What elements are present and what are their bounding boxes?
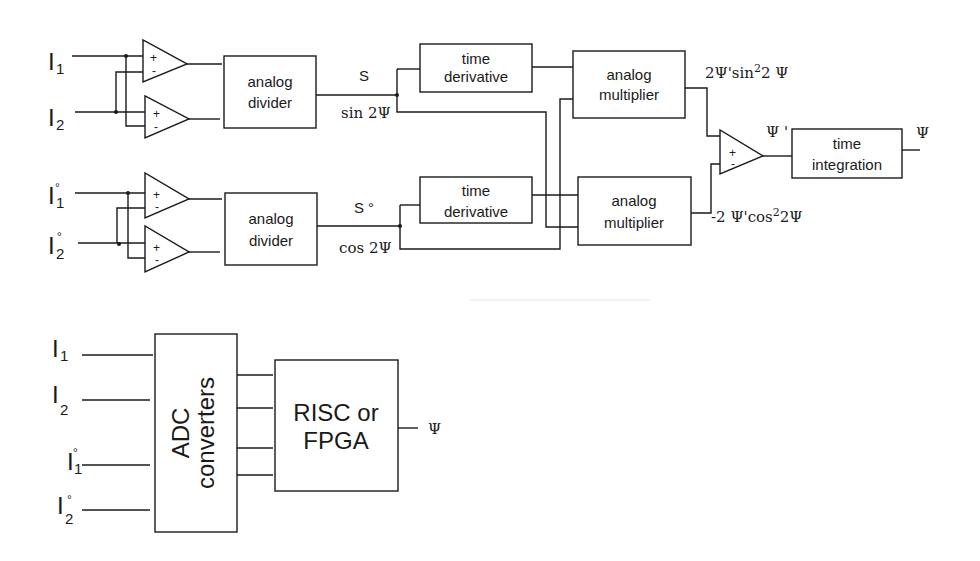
svg-text:analog: analog [606,66,651,83]
time-derivative-top: time derivative [420,44,532,92]
opamp-top-1: + - [143,40,187,82]
svg-text:2: 2 [56,116,64,133]
svg-text:analog: analog [247,73,292,90]
svg-text:divider: divider [248,94,292,111]
digital-input-i2: I 2 [52,381,150,418]
svg-text:-: - [731,157,735,171]
svg-text:-: - [155,253,159,267]
input-label-i1: I 1 [48,48,64,77]
svg-text:I: I [52,381,59,408]
svg-text:I: I [48,182,55,209]
adc-converters: ADC converters [155,334,237,532]
analog-multiplier-top: analog multiplier [573,51,685,118]
digital-input-i2-ref: I ° 2 [57,492,150,527]
svg-text:cos 2Ψ: cos 2Ψ [339,239,392,257]
svg-text:-: - [152,64,156,78]
block-diagram: I 1 I 2 I ° 1 I ° 2 + [0,0,980,561]
svg-text:ADC: ADC [167,408,194,459]
svg-text:+: + [153,107,160,121]
risc-fpga-processor: RISC or FPGA [275,360,398,491]
input-label-i2-ref: I ° 2 [48,230,64,262]
svg-text:time: time [833,135,861,152]
analog-chain: I 1 I 2 I ° 1 I ° 2 + [48,40,929,272]
svg-text:2Ψ'sin22 Ψ: 2Ψ'sin22 Ψ [705,62,788,82]
svg-text:-2 Ψ'cos22Ψ: -2 Ψ'cos22Ψ [711,206,803,226]
opamp-top-2: + - [145,96,189,138]
time-derivative-bottom: time derivative [420,177,532,223]
svg-text:°: ° [57,230,62,244]
analog-divider-bottom: analog divider [225,193,317,265]
svg-text:I: I [48,232,55,259]
svg-text:FPGA: FPGA [303,427,368,454]
digital-output-psi: Ψ [428,420,441,438]
svg-text:1: 1 [56,194,64,211]
svg-text:multiplier: multiplier [599,86,659,103]
svg-text:-: - [155,200,159,214]
svg-text:I: I [48,48,55,75]
digital-chain: I 1 I 2 I ° 1 I ° 2 ADC converters [52,334,441,532]
svg-text:+: + [150,51,157,65]
digital-input-i1: I 1 [52,335,153,364]
digital-input-i1-ref: I ° 1 [67,446,150,477]
svg-text:integration: integration [812,156,882,173]
svg-text:2: 2 [65,510,73,527]
svg-text:S: S [359,67,369,84]
svg-text:°: ° [67,493,72,507]
input-label-i1-ref: I ° 1 [48,181,64,211]
product-top-label: 2Ψ'sin22 Ψ [705,62,788,82]
svg-text:S °: S ° [354,199,374,216]
time-integration: time integration [792,129,902,178]
svg-text:RISC or: RISC or [293,399,378,426]
svg-text:1: 1 [56,60,64,77]
svg-text:analog: analog [611,192,656,209]
analog-divider-top: analog divider [224,56,316,128]
analog-multiplier-bottom: analog multiplier [578,177,691,245]
svg-text:divider: divider [249,232,293,249]
svg-text:time: time [462,50,490,67]
svg-text:I: I [52,335,59,362]
svg-text:°: ° [73,446,78,460]
svg-text:converters: converters [192,377,219,489]
input-label-i2: I 2 [48,104,64,133]
product-bottom-label: -2 Ψ'cos22Ψ [711,206,803,226]
opamp-bottom-1: + - [145,173,189,218]
psi-prime-label: Ψ ' [766,123,788,141]
svg-text:2: 2 [56,245,64,262]
svg-text:derivative: derivative [444,68,508,85]
svg-text:2: 2 [60,401,68,418]
svg-text:1: 1 [60,347,68,364]
svg-text:-: - [154,120,158,134]
svg-text:°: ° [55,181,60,195]
svg-text:analog: analog [248,210,293,227]
bottom-diff-wires [75,191,145,258]
svg-text:sin 2Ψ: sin 2Ψ [341,104,391,122]
opamp-bottom-2: + - [145,226,189,272]
output-psi-label: Ψ [916,124,929,142]
top-diff-wires [72,54,145,126]
svg-text:time: time [462,182,490,199]
adc-bus [237,375,273,475]
svg-text:I: I [57,492,64,519]
svg-text:I: I [48,104,55,131]
svg-text:multiplier: multiplier [604,214,664,231]
svg-text:1: 1 [74,460,82,477]
svg-text:derivative: derivative [444,203,508,220]
summing-opamp: + - [720,130,763,174]
